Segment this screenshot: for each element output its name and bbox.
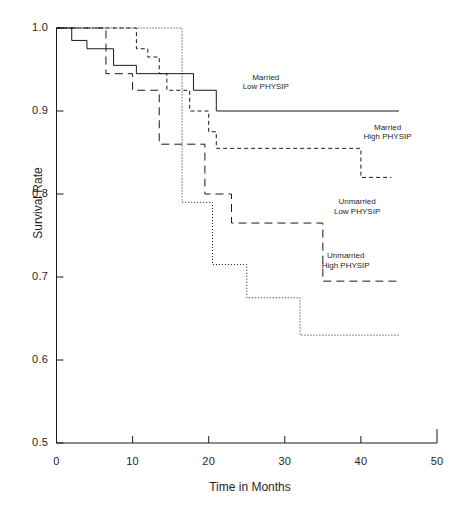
x-tick-label: 10 [118,455,148,467]
curve-label: UnmarriedHigh PHYSIP [311,251,381,270]
survival-curve [57,28,399,281]
y-tick-label: 0.9 [14,104,48,116]
curve-label-line2: High PHYSIP [311,261,381,271]
x-tick-label: 20 [194,455,224,467]
curve-label: MarriedLow PHYSIP [231,73,301,92]
y-tick-label: 0.6 [14,353,48,365]
y-tick-label: 0.7 [14,270,48,282]
curve-label-line1: Unmarried [311,251,381,261]
survival-curves [57,28,399,335]
survival-curve [57,28,399,111]
y-tick-label: 0.5 [14,436,48,448]
curve-label: UnmarriedLow PHYSIP [322,197,392,216]
curve-label-line1: Unmarried [322,197,392,207]
x-tick-label: 30 [270,455,300,467]
x-tick-label: 40 [346,455,376,467]
y-tick-label: 1.0 [14,21,48,33]
curve-label-line2: High PHYSIP [353,132,423,142]
curve-label-line1: Married [231,73,301,83]
x-tick-label: 0 [42,455,72,467]
curve-label-line2: Low PHYSIP [231,82,301,92]
survival-curve-chart: 0.50.60.70.80.91.0 01020304050 Survival … [0,0,462,514]
survival-curve [57,28,392,177]
curve-label-line2: Low PHYSIP [322,207,392,217]
x-tick-label: 50 [422,455,452,467]
curve-label: MarriedHigh PHYSIP [353,123,423,142]
y-axis-title: Survival Rate [31,143,45,263]
x-axis-title: Time in Months [150,480,350,494]
curve-label-line1: Married [353,123,423,133]
